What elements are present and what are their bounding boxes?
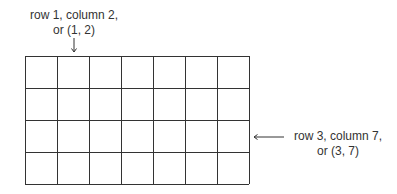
right-annotation: row 3, column 7, or (3, 7) [288,129,388,159]
top-annotation: row 1, column 2, or (1, 2) [24,8,124,38]
down-arrow-icon [72,38,77,52]
grid [25,56,250,185]
right-annotation-line1: row 3, column 7, [288,129,388,144]
top-annotation-line1: row 1, column 2, [24,8,124,23]
top-annotation-line2: or (1, 2) [24,23,124,38]
right-annotation-line2: or (3, 7) [288,144,388,159]
left-arrow-icon [254,135,284,140]
